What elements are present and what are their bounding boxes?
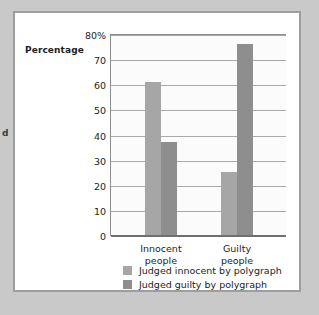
legend-label: Judged innocent by polygraph [139,265,282,276]
y-axis-tick-label: 0 [100,231,106,242]
chart-legend: Judged innocent by polygraphJudged guilt… [123,265,282,293]
legend-item: Judged innocent by polygraph [123,265,282,276]
legend-label: Judged guilty by polygraph [139,279,267,290]
y-axis-tick-label: 50 [94,105,106,116]
x-axis-category-line: Innocent [140,243,181,255]
x-axis-category-line: Guilty [221,243,253,255]
legend-item: Judged guilty by polygraph [123,279,282,290]
plot-area: 80%706050403020100 InnocentpeopleGuiltyp… [110,34,286,236]
x-axis-labels: InnocentpeopleGuiltypeople [111,35,286,236]
margin-text-fragment: d [2,128,8,138]
chart-card: Percentage 80%706050403020100 Innocentpe… [13,11,301,292]
y-axis-tick-label: 10 [94,205,106,216]
y-axis-tick-label: 60 [94,80,106,91]
y-axis-tick-label: 30 [94,155,106,166]
y-axis-title: Percentage [25,45,84,55]
gridline [111,236,286,237]
legend-swatch-icon [123,266,132,275]
y-axis-tick-label: 70 [94,55,106,66]
bar-chart: Percentage 80%706050403020100 Innocentpe… [15,13,299,290]
y-axis-tick-label: 80% [85,30,106,41]
x-axis-line [111,235,286,236]
x-axis-category-label: Innocentpeople [140,243,181,266]
legend-swatch-icon [123,280,132,289]
y-axis-tick-label: 20 [94,180,106,191]
x-axis-category-label: Guiltypeople [221,243,253,266]
y-axis-tick-label: 40 [94,130,106,141]
